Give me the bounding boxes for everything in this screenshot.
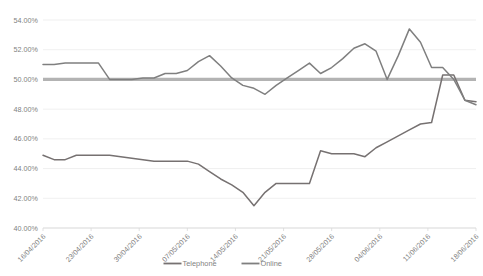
x-axis-tick-label: 18/06/2016	[449, 232, 481, 264]
x-axis-tick-label: 28/05/2016	[304, 232, 336, 264]
chart-container: 40.00%42.00%44.00%46.00%48.00%50.00%52.0…	[0, 0, 483, 276]
x-axis-labels-group: 16/04/201623/04/201630/04/201607/05/2016…	[16, 228, 481, 264]
y-axis-labels-group: 40.00%42.00%44.00%46.00%48.00%50.00%52.0…	[14, 16, 39, 233]
y-axis-tick-label: 40.00%	[14, 224, 39, 233]
y-axis-tick-label: 42.00%	[14, 194, 39, 203]
x-axis-tick-label: 11/06/2016	[401, 232, 432, 263]
legend-label[interactable]: Telephone	[183, 259, 217, 268]
chart-legend: TelephoneOnline	[164, 259, 282, 268]
y-axis-tick-label: 50.00%	[14, 75, 39, 84]
x-axis-tick-label: 04/06/2016	[352, 232, 384, 264]
x-axis-tick-label: 23/04/2016	[64, 232, 96, 264]
data-series-group	[43, 29, 476, 206]
y-axis-tick-label: 46.00%	[14, 134, 39, 143]
x-axis-tick-label: 16/04/2016	[16, 232, 48, 264]
gridlines-group	[43, 20, 476, 228]
y-axis-tick-label: 52.00%	[14, 45, 39, 54]
series-line-online	[43, 29, 476, 105]
x-axis-tick-label: 30/04/2016	[112, 232, 144, 264]
y-axis-tick-label: 54.00%	[14, 16, 39, 25]
series-line-telephone	[43, 75, 476, 206]
line-chart: 40.00%42.00%44.00%46.00%48.00%50.00%52.0…	[0, 0, 483, 276]
legend-label[interactable]: Online	[261, 259, 282, 268]
y-axis-tick-label: 44.00%	[14, 164, 39, 173]
y-axis-tick-label: 48.00%	[14, 105, 39, 114]
